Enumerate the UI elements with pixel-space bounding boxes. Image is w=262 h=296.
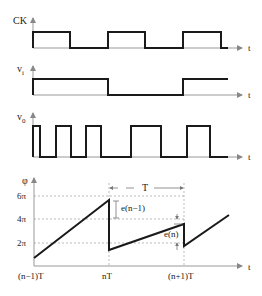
error-n-label: e(n)	[164, 229, 179, 239]
period-label: T	[142, 182, 148, 193]
xtick-n-plus-1-T: (n+1)T	[168, 271, 194, 281]
ck-t-label: t	[248, 43, 251, 53]
xtick-n-minus-1-T: (n−1)T	[18, 271, 44, 281]
vo-waveform-panel: v0 t	[17, 111, 251, 162]
ytick-6pi: 6π	[17, 191, 27, 201]
phi-label: φ	[22, 175, 28, 186]
phi-t-label: t	[248, 262, 251, 272]
vo-signal	[33, 126, 228, 157]
vo-label: v0	[17, 111, 26, 125]
ytick-2pi: 2π	[17, 238, 27, 248]
ck-waveform-panel: CK t	[13, 15, 251, 53]
xtick-nT: nT	[102, 271, 113, 281]
ck-label: CK	[13, 15, 28, 26]
vi-t-label: t	[248, 90, 251, 100]
error-n-minus-1-label: e(n−1)	[121, 203, 145, 213]
vo-t-label: t	[248, 152, 251, 162]
vi-signal	[33, 79, 228, 95]
phase-panel: φ t 6π 4π 2π (n−1)T nT (n+1)T T e(n−1) e…	[17, 175, 251, 281]
vi-label: vi	[17, 63, 24, 77]
vi-waveform-panel: vi t	[17, 63, 251, 100]
timing-diagram: CK t vi t v0 t φ t 6π 4π 2π (n−1	[0, 0, 262, 296]
ytick-4pi: 4π	[17, 214, 27, 224]
ck-signal	[33, 32, 228, 48]
